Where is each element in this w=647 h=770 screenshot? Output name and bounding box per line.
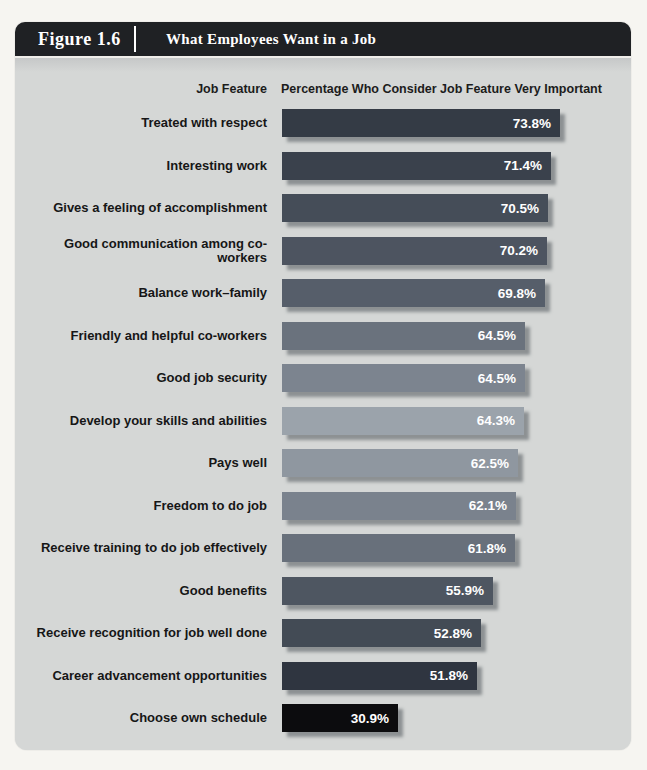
bar-label: Good communication among co-workers xyxy=(15,237,267,264)
bar-label: Receive recognition for job well done xyxy=(15,626,267,640)
bar: 73.8% xyxy=(282,109,560,137)
column-headers: Job Feature Percentage Who Consider Job … xyxy=(15,58,631,96)
bar-track: 61.8% xyxy=(282,534,631,562)
bar-row: Good job security64.5% xyxy=(15,357,631,400)
column-header-job-feature: Job Feature xyxy=(15,82,267,96)
bar-value: 70.5% xyxy=(501,201,548,216)
bar-row: Freedom to do job62.1% xyxy=(15,485,631,528)
bar-value: 62.5% xyxy=(471,456,518,471)
bar-value: 30.9% xyxy=(351,711,398,726)
bar-value: 70.2% xyxy=(500,243,547,258)
bar: 55.9% xyxy=(282,577,493,605)
bar: 51.8% xyxy=(282,662,477,690)
bar-row: Gives a feeling of accomplishment70.5% xyxy=(15,187,631,230)
bar-label: Receive training to do job effectively xyxy=(15,541,267,555)
bar-row: Interesting work71.4% xyxy=(15,145,631,188)
bar-label: Develop your skills and abilities xyxy=(15,414,267,428)
bar-track: 69.8% xyxy=(282,279,631,307)
figure-number: Figure 1.6 xyxy=(38,29,134,50)
bar: 52.8% xyxy=(282,619,481,647)
bar-value: 61.8% xyxy=(468,541,515,556)
bar-row: Receive training to do job effectively61… xyxy=(15,527,631,570)
bar-row: Choose own schedule30.9% xyxy=(15,697,631,740)
bar-row: Friendly and helpful co-workers64.5% xyxy=(15,315,631,358)
header-divider xyxy=(134,26,136,52)
bar-value: 55.9% xyxy=(446,583,493,598)
bar-track: 52.8% xyxy=(282,619,631,647)
bar-row: Good communication among co-workers70.2% xyxy=(15,230,631,273)
bar: 69.8% xyxy=(282,279,545,307)
bar-value: 64.5% xyxy=(478,328,525,343)
bar-value: 69.8% xyxy=(498,286,545,301)
bar-label: Interesting work xyxy=(15,159,267,173)
bar-track: 64.5% xyxy=(282,322,631,350)
bar: 70.5% xyxy=(282,194,548,222)
column-header-percentage: Percentage Who Consider Job Feature Very… xyxy=(281,82,602,96)
bar: 64.3% xyxy=(282,407,524,435)
bar-value: 52.8% xyxy=(434,626,481,641)
bar-label: Balance work–family xyxy=(15,286,267,300)
bar-value: 71.4% xyxy=(504,158,551,173)
bar-label: Friendly and helpful co-workers xyxy=(15,329,267,343)
bar-track: 64.3% xyxy=(282,407,631,435)
bar-rows: Treated with respect73.8%Interesting wor… xyxy=(15,102,631,740)
bar: 64.5% xyxy=(282,364,525,392)
bar-track: 70.2% xyxy=(282,237,631,265)
bar-value: 73.8% xyxy=(513,116,560,131)
bar-label: Treated with respect xyxy=(15,116,267,130)
bar-value: 64.5% xyxy=(478,371,525,386)
bar-row: Career advancement opportunities51.8% xyxy=(15,655,631,698)
bar-value: 62.1% xyxy=(469,498,516,513)
bar-row: Treated with respect73.8% xyxy=(15,102,631,145)
bar: 64.5% xyxy=(282,322,525,350)
bar-track: 30.9% xyxy=(282,704,631,732)
bar-value: 64.3% xyxy=(477,413,524,428)
chart-body: Job Feature Percentage Who Consider Job … xyxy=(15,58,631,750)
figure-header: Figure 1.6 What Employees Want in a Job xyxy=(15,22,631,58)
bar-label: Choose own schedule xyxy=(15,711,267,725)
bar: 30.9% xyxy=(282,704,398,732)
bar-track: 51.8% xyxy=(282,662,631,690)
bar-label: Freedom to do job xyxy=(15,499,267,513)
bar-label: Career advancement opportunities xyxy=(15,669,267,683)
bar-row: Develop your skills and abilities64.3% xyxy=(15,400,631,443)
figure-title: What Employees Want in a Job xyxy=(166,31,376,48)
bar-row: Good benefits55.9% xyxy=(15,570,631,613)
bar-track: 64.5% xyxy=(282,364,631,392)
bar-row: Pays well62.5% xyxy=(15,442,631,485)
bar-track: 70.5% xyxy=(282,194,631,222)
bar: 61.8% xyxy=(282,534,515,562)
bar-value: 51.8% xyxy=(430,668,477,683)
bar-label: Pays well xyxy=(15,456,267,470)
bar-track: 62.5% xyxy=(282,449,631,477)
bar-label: Good job security xyxy=(15,371,267,385)
bar-track: 71.4% xyxy=(282,152,631,180)
bar: 62.1% xyxy=(282,492,516,520)
bar-row: Receive recognition for job well done52.… xyxy=(15,612,631,655)
bar-label: Gives a feeling of accomplishment xyxy=(15,201,267,215)
bar-track: 73.8% xyxy=(282,109,631,137)
bar: 62.5% xyxy=(282,449,518,477)
figure-panel: Figure 1.6 What Employees Want in a Job … xyxy=(15,22,631,750)
bar-label: Good benefits xyxy=(15,584,267,598)
bar-track: 62.1% xyxy=(282,492,631,520)
bar-row: Balance work–family69.8% xyxy=(15,272,631,315)
bar: 71.4% xyxy=(282,152,551,180)
bar: 70.2% xyxy=(282,237,547,265)
bar-track: 55.9% xyxy=(282,577,631,605)
